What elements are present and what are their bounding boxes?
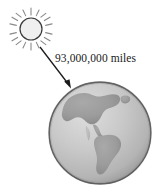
- sun-earth-distance-figure: 93,000,000 miles: [0, 0, 164, 189]
- earth-graphic-layer: [0, 0, 164, 189]
- distance-label: 93,000,000 miles: [55, 52, 136, 65]
